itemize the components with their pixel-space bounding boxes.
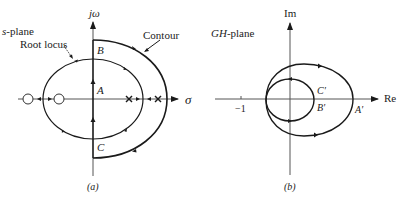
zero-marker-icon [54,94,64,104]
point-c-label: C [97,142,104,153]
root-locus-arrow-icon [124,67,128,70]
point-a-label: A [97,85,104,96]
minus-one-label: −1 [235,104,246,114]
point-a-prime-label: A′ [355,105,363,115]
jw-axis-label: jω [89,8,100,19]
s-plane-suffix: -plane [6,25,33,37]
caption-b: (b) [284,182,296,192]
contour-callout: Contour [143,30,179,41]
gh-plane-diagram [215,23,378,175]
s-plane-label: s-plane [2,26,34,37]
gh-plane-suffix: -plane [227,27,254,39]
outer-nyquist-loop [266,64,353,136]
figure-canvas [0,0,398,197]
sigma-axis-label: σ [185,93,191,106]
caption-a: (a) [87,182,99,192]
axis-locus-arrow-icon [37,97,41,101]
outer-loop-arrow-icon [318,64,322,69]
gh-plane-var: GH [211,27,227,39]
contour-arrow-icon [91,117,96,122]
root-locus-callout: Root locus [20,39,67,50]
axis-locus-arrow-icon [147,97,151,101]
contour-arrow-icon [91,79,96,84]
im-axis-label: Im [284,8,296,19]
gh-plane-label: GH-plane [211,28,254,39]
root-locus-callout-arrow-icon [69,55,73,60]
axis-locus-arrow-icon [48,97,52,101]
axis-locus-arrow-icon [136,97,140,101]
re-axis-label: Re [384,93,396,104]
point-b-prime-label: B′ [317,103,325,113]
zero-marker-icon [23,94,33,104]
outer-loop-arrow-icon [314,133,318,138]
point-c-prime-label: C′ [317,86,326,96]
point-b-label: B [97,45,104,56]
